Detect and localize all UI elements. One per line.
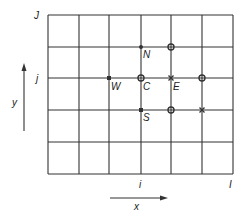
node-label-N: N — [143, 49, 151, 60]
grid-diagram: J j i I y x N W C E S — [0, 0, 248, 220]
x-axis-label: x — [133, 201, 140, 212]
label-i: i — [139, 179, 142, 190]
label-J: J — [33, 10, 40, 21]
y-axis-label: y — [11, 97, 18, 108]
node-label-C: C — [143, 81, 151, 92]
label-I: I — [229, 179, 232, 190]
x-axis-arrow — [110, 196, 168, 201]
label-j: j — [34, 73, 39, 84]
grid-lines — [48, 15, 233, 174]
node-label-W: W — [111, 81, 122, 92]
marker-filled-square-W — [107, 76, 111, 80]
node-label-S: S — [143, 112, 150, 123]
node-label-E: E — [173, 81, 180, 92]
y-axis-arrow — [22, 63, 27, 131]
